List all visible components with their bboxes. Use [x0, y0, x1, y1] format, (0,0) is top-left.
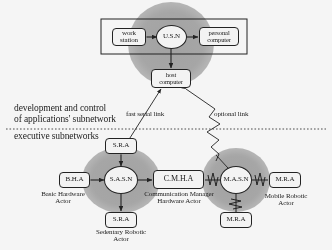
node-usn[interactable]: U.S.N — [156, 25, 187, 49]
label-optional-link: optional link — [214, 110, 248, 118]
caption-sra-line2: Actor — [113, 235, 128, 243]
node-mra-bottom-label: M.R.A — [227, 216, 246, 223]
zone-label-development-subnetwork: development and control of applications'… — [14, 103, 140, 125]
label-optional-link-text: optional link — [214, 110, 248, 118]
caption-mra-line2: Actor — [278, 199, 293, 207]
zone-label-exec-line1: executive subnetworks — [14, 131, 99, 141]
caption-communication-manager-hardware-actor: Communication Manager Hardware Actor — [131, 191, 227, 206]
node-sra-bottom[interactable]: S.R.A — [105, 212, 137, 228]
caption-mobile-robotic-actor: Mobile Robotic Actor — [254, 193, 318, 208]
node-mra-right-label: M.R.A — [276, 176, 295, 183]
caption-cmha-line2: Hardware Actor — [157, 197, 201, 205]
zone-label-dev-line1: development and control — [14, 103, 106, 113]
node-cmha[interactable]: C.M.H.A — [153, 170, 204, 189]
caption-basic-hardware-actor: Basic Hardware Actor — [26, 191, 100, 206]
caption-bha-line2: Actor — [55, 197, 70, 205]
node-sra-bottom-label: S.R.A — [113, 216, 130, 223]
node-mra-right[interactable]: M.R.A — [269, 172, 301, 188]
node-mra-bottom[interactable]: M.R.A — [220, 212, 252, 228]
node-work-station[interactable]: workstation — [112, 28, 146, 46]
node-masn-label: M.A.S.N — [224, 176, 249, 183]
node-work-station-label: workstation — [120, 30, 138, 44]
diagram-canvas: workstation U.S.N personalcomputer hostc… — [0, 0, 332, 250]
node-usn-label: U.S.N — [163, 33, 180, 40]
link-host-optional — [186, 89, 215, 109]
node-sasn-label: S.A.S.N — [110, 176, 132, 183]
zone-label-executive-subnetworks: executive subnetworks — [14, 131, 140, 142]
zone-label-dev-line2: of applications' subnetwork — [14, 114, 116, 124]
node-bha[interactable]: B.H.A — [59, 172, 90, 188]
node-cmha-label: C.M.H.A — [164, 175, 193, 183]
caption-sedentary-robotic-actor: Sedentary Robotic Actor — [83, 229, 159, 244]
node-sasn[interactable]: S.A.S.N — [104, 166, 138, 194]
node-masn[interactable]: M.A.S.N — [220, 166, 252, 194]
node-host-computer[interactable]: hostcomputer — [151, 69, 191, 88]
node-personal-computer-label: personalcomputer — [207, 30, 231, 43]
node-host-computer-label: hostcomputer — [159, 72, 183, 85]
node-bha-label: B.H.A — [66, 176, 84, 183]
node-sra-top-label: S.R.A — [113, 142, 130, 149]
node-personal-computer[interactable]: personalcomputer — [199, 27, 239, 46]
